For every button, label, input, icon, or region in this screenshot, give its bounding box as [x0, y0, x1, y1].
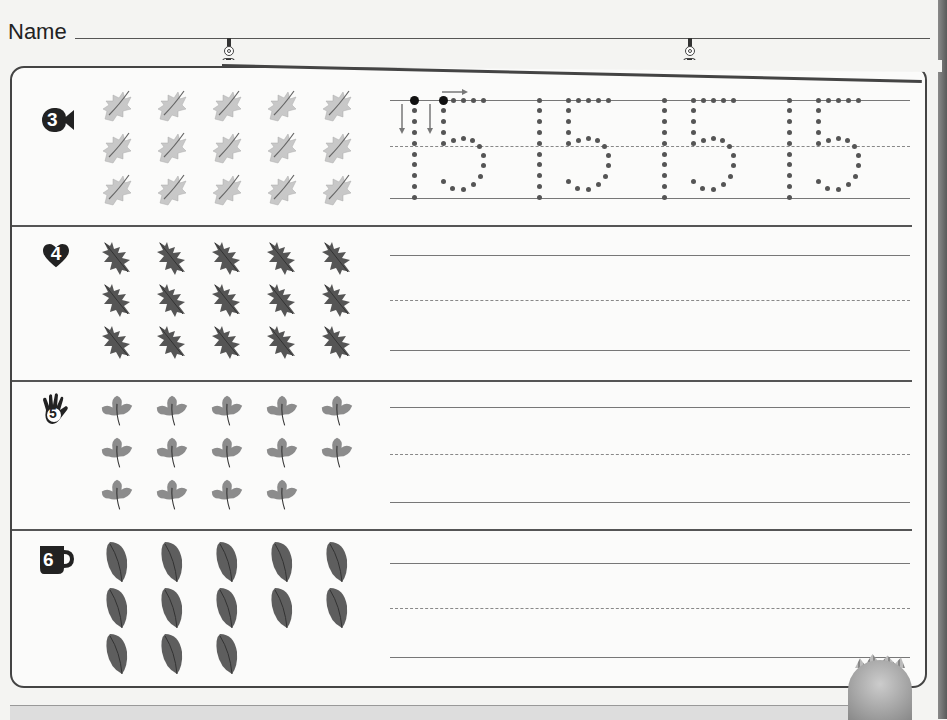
oak-leaf-dark-icon [265, 324, 299, 360]
oak-leaf-dark-icon [265, 282, 299, 318]
fish-tail [62, 110, 74, 130]
oak-leaf-dark-icon [155, 324, 189, 360]
maple-leaf-icon [320, 435, 354, 471]
oak-leaf-dark-icon [155, 282, 189, 318]
maple-leaf-icon [320, 393, 354, 429]
oval-leaf-icon [210, 586, 244, 630]
maple-leaf-icon [155, 477, 189, 513]
oak-leaf-light-icon [265, 88, 299, 124]
mid-line [390, 608, 910, 609]
empty-slot [265, 632, 299, 676]
oak-leaf-light-icon [210, 130, 244, 166]
stroke-arrow-icon [390, 88, 910, 188]
object-grid-3 [100, 88, 375, 208]
mid-line [390, 300, 910, 301]
oak-leaf-dark-icon [100, 282, 134, 318]
oak-leaf-light-icon [265, 130, 299, 166]
section-badge-4: 4 [40, 242, 72, 270]
oak-leaf-dark-icon [210, 282, 244, 318]
name-label: Name [8, 19, 67, 45]
tracing-area-15[interactable] [390, 100, 910, 200]
oval-leaf-icon [100, 540, 134, 584]
oval-leaf-icon [265, 586, 299, 630]
top-line [390, 255, 910, 256]
base-line [390, 502, 910, 503]
top-line [390, 407, 910, 408]
maple-leaf-icon [100, 393, 134, 429]
oak-leaf-dark-icon [155, 240, 189, 276]
oak-leaf-dark-icon [265, 240, 299, 276]
section-number: 3 [47, 109, 58, 131]
oval-leaf-icon [100, 586, 134, 630]
oak-leaf-light-icon [320, 172, 354, 208]
oak-leaf-dark-icon [210, 240, 244, 276]
oak-leaf-light-icon [100, 172, 134, 208]
section-number: 4 [51, 243, 62, 265]
oval-leaf-icon [100, 632, 134, 676]
page-edge-shadow [938, 0, 947, 719]
oval-leaf-icon [320, 586, 354, 630]
maple-leaf-icon [265, 477, 299, 513]
mid-line [390, 454, 910, 455]
maple-leaf-icon [155, 393, 189, 429]
maple-leaf-icon [100, 435, 134, 471]
oval-leaf-icon [155, 586, 189, 630]
maple-leaf-icon [265, 393, 299, 429]
section-badge-5: 5 [40, 392, 72, 426]
oak-leaf-dark-icon [210, 324, 244, 360]
oak-leaf-light-icon [210, 88, 244, 124]
oval-leaf-icon [155, 632, 189, 676]
oak-leaf-light-icon [320, 88, 354, 124]
object-grid-5 [100, 393, 375, 513]
base-line [390, 198, 910, 199]
section-divider [12, 529, 912, 531]
maple-leaf-icon [100, 477, 134, 513]
oak-leaf-dark-icon [320, 240, 354, 276]
object-grid-4 [100, 240, 375, 360]
oak-leaf-dark-icon [100, 324, 134, 360]
name-input-line[interactable] [75, 38, 930, 39]
section-divider [12, 225, 912, 227]
oval-leaf-icon [155, 540, 189, 584]
empty-slot [320, 632, 354, 676]
oak-leaf-light-icon [265, 172, 299, 208]
section-badge-3: 3 [40, 106, 72, 134]
oval-leaf-icon [320, 540, 354, 584]
oak-leaf-dark-icon [320, 282, 354, 318]
section-number: 6 [43, 549, 54, 571]
maple-leaf-icon [210, 393, 244, 429]
character-head-icon [848, 660, 912, 720]
section-badge-6: 6 [40, 546, 72, 574]
maple-leaf-icon [155, 435, 189, 471]
oak-leaf-light-icon [100, 88, 134, 124]
oak-leaf-light-icon [155, 130, 189, 166]
section-number: 5 [49, 405, 57, 421]
oak-leaf-dark-icon [100, 240, 134, 276]
oak-leaf-light-icon [155, 88, 189, 124]
maple-leaf-icon [265, 435, 299, 471]
oval-leaf-icon [265, 540, 299, 584]
oval-leaf-icon [210, 540, 244, 584]
object-grid-6 [100, 540, 375, 676]
oak-leaf-light-icon [100, 130, 134, 166]
base-line [390, 657, 910, 658]
oak-leaf-dark-icon [320, 324, 354, 360]
bottom-banner [10, 705, 890, 720]
oval-leaf-icon [210, 632, 244, 676]
empty-slot [320, 477, 354, 513]
section-divider [12, 380, 912, 382]
maple-leaf-icon [210, 435, 244, 471]
top-line [390, 563, 910, 564]
oak-leaf-light-icon [210, 172, 244, 208]
base-line [390, 350, 910, 351]
oak-leaf-light-icon [320, 130, 354, 166]
oak-leaf-light-icon [155, 172, 189, 208]
maple-leaf-icon [210, 477, 244, 513]
